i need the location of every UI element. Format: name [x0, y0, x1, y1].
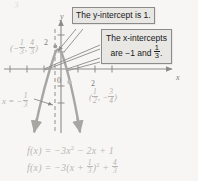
callout-x-intercepts-period: .: [160, 48, 162, 58]
callout-x-intercepts-line2: are −1 and 13.: [106, 44, 167, 60]
axis-sym-prefix: x = −: [2, 96, 23, 106]
equation-vertex-fraction-2: 43: [112, 159, 118, 175]
vertex-point: [53, 45, 57, 49]
equation-standard-prefix: f(x) = −3x: [27, 145, 71, 156]
callout-y-intercept-text: The y-intercept is 1.: [76, 10, 151, 20]
equation-block: f(x) = −3x2 − 2x + 1 f(x) = −3(x + 13)2 …: [27, 143, 118, 176]
equation-standard-suffix: − 2x + 1: [74, 145, 114, 156]
x-axis-label: x: [176, 73, 180, 82]
vertex-close-paren: ): [35, 43, 38, 53]
callout-y-intercept: The y-intercept is 1.: [72, 7, 155, 24]
axis-of-symmetry-label: x = −13: [2, 92, 28, 108]
x-axis: [4, 66, 172, 73]
callout-x-intercepts: The x-intercepts are −1 and 13.: [101, 29, 172, 64]
equation-vertex-prefix: f(x) = −3(x +: [27, 162, 84, 173]
marked-point-label: (12, −34): [89, 88, 117, 104]
axis-sym-fraction: 13: [23, 92, 29, 108]
point-close-paren: ): [114, 92, 117, 102]
equation-vertex-plus: +: [100, 162, 110, 173]
equation-vertex-form: f(x) = −3(x + 13)2 + 43: [27, 159, 118, 176]
corner-page-mark: 3: [14, 0, 19, 10]
point-comma: , −: [98, 92, 109, 102]
y-axis-label: y: [60, 12, 64, 21]
vertex-open-paren: (−: [10, 43, 19, 53]
origin-label: 0: [57, 76, 61, 85]
axis-symmetry-leader: [34, 99, 53, 105]
parabola-curve: [34, 49, 80, 131]
y-tick-label-2: 2: [44, 38, 48, 47]
marked-point: [67, 80, 71, 84]
equation-standard-form: f(x) = −3x2 − 2x + 1: [27, 143, 118, 159]
vertex-comma: ,: [25, 43, 27, 53]
callout-x-intercepts-prefix: are −1 and: [111, 48, 152, 58]
vertex-point-label: (−13, 43): [10, 39, 38, 55]
